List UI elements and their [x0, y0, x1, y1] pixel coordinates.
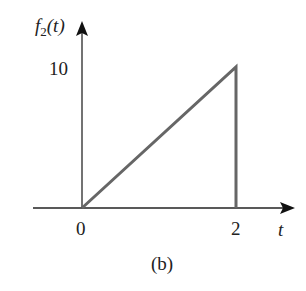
x-tick-0: 0 — [76, 219, 86, 238]
figure-caption: (b) — [151, 254, 173, 273]
y-axis-label: f2(t) — [35, 16, 65, 38]
x-axis-label: t — [278, 220, 283, 239]
y-tick-10: 10 — [49, 59, 68, 78]
signal-line — [82, 67, 236, 208]
x-tick-2: 2 — [231, 219, 241, 238]
chart-plot — [0, 0, 306, 291]
